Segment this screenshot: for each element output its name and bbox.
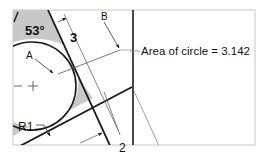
- dimension-label-2: 2: [119, 141, 126, 154]
- area-note: Area of circle = 3.142: [141, 45, 250, 57]
- radius-label: R1: [18, 120, 34, 134]
- cad-drawing: 53° 3 A B R1 2 Area of circle = 3.142: [0, 0, 262, 154]
- leader-label-a: A: [26, 50, 33, 61]
- dimension-label-3: 3: [70, 30, 77, 45]
- leader-label-b: B: [101, 11, 108, 22]
- angle-label: 53°: [25, 23, 45, 38]
